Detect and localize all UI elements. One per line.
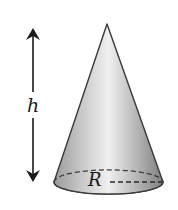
cone-diagram: h R	[0, 0, 178, 210]
radius-label: R	[88, 171, 102, 189]
cone-body	[54, 24, 163, 194]
height-label: h	[27, 95, 39, 116]
